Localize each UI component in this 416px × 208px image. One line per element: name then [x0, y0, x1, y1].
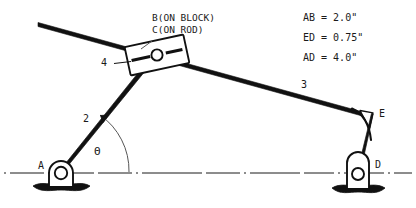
callout-b-on-block: B(ON BLOCK) — [152, 12, 215, 23]
angle-arc-theta — [100, 115, 129, 172]
pivot-d-pin — [352, 168, 364, 180]
pin-circle — [151, 49, 162, 60]
theta-arc — [100, 115, 129, 172]
pin-joint-bc — [151, 49, 162, 60]
label-angle-theta: Θ — [94, 145, 101, 158]
callout-c-on-rod: C(ON ROD) — [152, 24, 203, 35]
pivot-a-pin — [55, 167, 67, 179]
dimension-ab: AB = 2.0" — [303, 13, 357, 23]
label-point-d: D — [375, 159, 381, 170]
label-link-2: 2 — [83, 113, 89, 124]
dimension-ed: ED = 0.75" — [303, 33, 363, 43]
label-point-e: E — [379, 108, 385, 119]
dimension-ad: AD = 4.0" — [303, 53, 357, 63]
label-point-a: A — [38, 160, 44, 171]
linkage-diagram: B(ON BLOCK) C(ON ROD) AB = 2.0" ED = 0.7… — [0, 0, 416, 208]
label-link-3: 3 — [301, 79, 307, 90]
label-link-4: 4 — [101, 57, 107, 68]
